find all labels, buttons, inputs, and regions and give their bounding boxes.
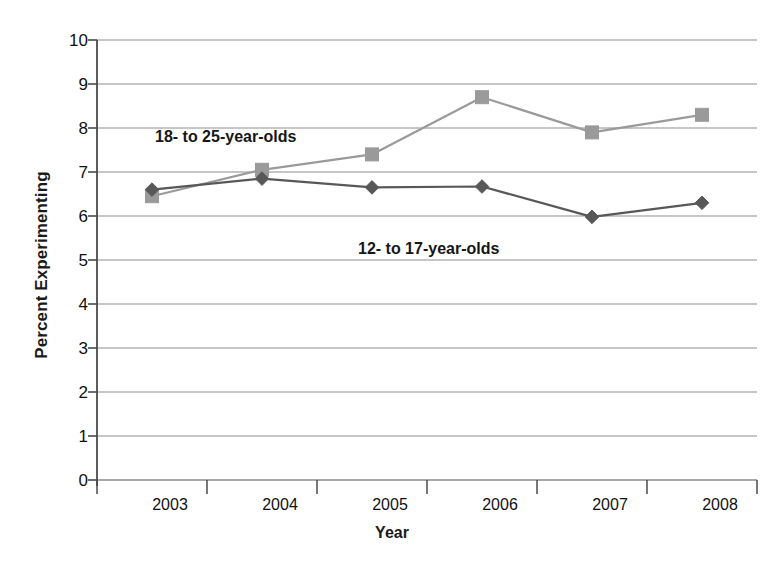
- gridlines: [97, 40, 757, 480]
- data-point-marker: [695, 196, 709, 210]
- y-tick-label-1: 1: [48, 428, 88, 445]
- y-tick-label-4: 4: [48, 296, 88, 313]
- data-point-marker: [585, 210, 599, 224]
- y-tick-label-10: 10: [48, 32, 88, 49]
- series-line-1: [152, 179, 702, 217]
- y-tick-label-2: 2: [48, 384, 88, 401]
- data-point-marker: [475, 180, 489, 194]
- x-tick-label-2006: 2006: [455, 497, 545, 513]
- x-tick-label-2004: 2004: [235, 497, 325, 513]
- tick-marks: [88, 40, 757, 494]
- series-layer: [145, 91, 709, 224]
- y-tick-label-3: 3: [48, 340, 88, 357]
- x-tick-label-2005: 2005: [345, 497, 435, 513]
- series-annotation-12-to-17: 12- to 17-year-olds: [358, 240, 499, 258]
- plot-area: [0, 0, 784, 571]
- y-tick-label-9: 9: [48, 76, 88, 93]
- data-point-marker: [586, 126, 599, 139]
- x-tick-label-2007: 2007: [565, 497, 655, 513]
- data-point-marker: [366, 148, 379, 161]
- series-annotation-18-to-25: 18- to 25-year-olds: [155, 128, 296, 146]
- y-tick-label-8: 8: [48, 120, 88, 137]
- x-axis-title: Year: [0, 524, 784, 542]
- data-point-marker: [365, 181, 379, 195]
- x-tick-label-2008: 2008: [675, 497, 765, 513]
- y-tick-label-0: 0: [48, 472, 88, 489]
- y-tick-label-5: 5: [48, 252, 88, 269]
- y-tick-label-7: 7: [48, 164, 88, 181]
- y-tick-label-6: 6: [48, 208, 88, 225]
- x-tick-label-2003: 2003: [125, 497, 215, 513]
- line-chart: Percent Experimenting Year 10 9 8 7 6 5 …: [0, 0, 784, 571]
- data-point-marker: [696, 108, 709, 121]
- data-point-marker: [476, 91, 489, 104]
